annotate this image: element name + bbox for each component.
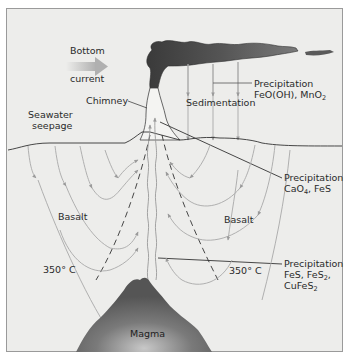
chimney-label: Chimney [86,95,128,106]
precip-low-leader [158,258,282,264]
precip-low-label-3: CuFeS2 [284,280,318,291]
plume-wisp [305,50,334,55]
basalt-left-label: Basalt [58,211,87,222]
precip-low-formula: FeS, FeS [284,269,324,280]
chimney-leader [128,101,147,108]
seawater-label-2: seepage [32,120,72,131]
precip-mid-formula-b: , FeS [308,183,331,194]
sedimentation-label: Sedimentation [186,97,255,108]
bottom-current-label-1: Bottom [70,45,105,56]
basalt-right-label: Basalt [224,214,253,225]
precip-low-formula-b: , [328,269,331,280]
precip-mid-label-1: Precipitation [284,172,343,183]
rising-fluid [147,118,156,280]
precip-low-subscript-c: 2 [313,285,317,293]
magma-chamber [76,278,212,352]
precip-mid-label-2: CaO4, FeS [284,183,331,194]
precip-low-label-2: FeS, FeS2, [284,269,331,280]
precip-top-label-2: FeO(OH), MnO2 [254,89,326,100]
precip-low-formula-c: CuFeS [284,280,313,291]
precip-top-subscript: 2 [322,94,326,102]
isotherm-350c [96,135,218,280]
precip-top-label-1: Precipitation [254,78,313,89]
temp-left-label: 350° C [43,264,76,275]
magma-label: Magma [130,328,165,339]
precip-mid-leader [160,122,282,178]
precip-top-formula: FeO(OH), MnO [254,89,322,100]
precip-low-label-1: Precipitation [284,258,343,269]
temp-right-label: 350° C [229,265,262,276]
seawater-label-1: Seawater [28,109,73,120]
precip-mid-formula: CaO [284,183,304,194]
bottom-current-label-2: current [70,73,104,84]
